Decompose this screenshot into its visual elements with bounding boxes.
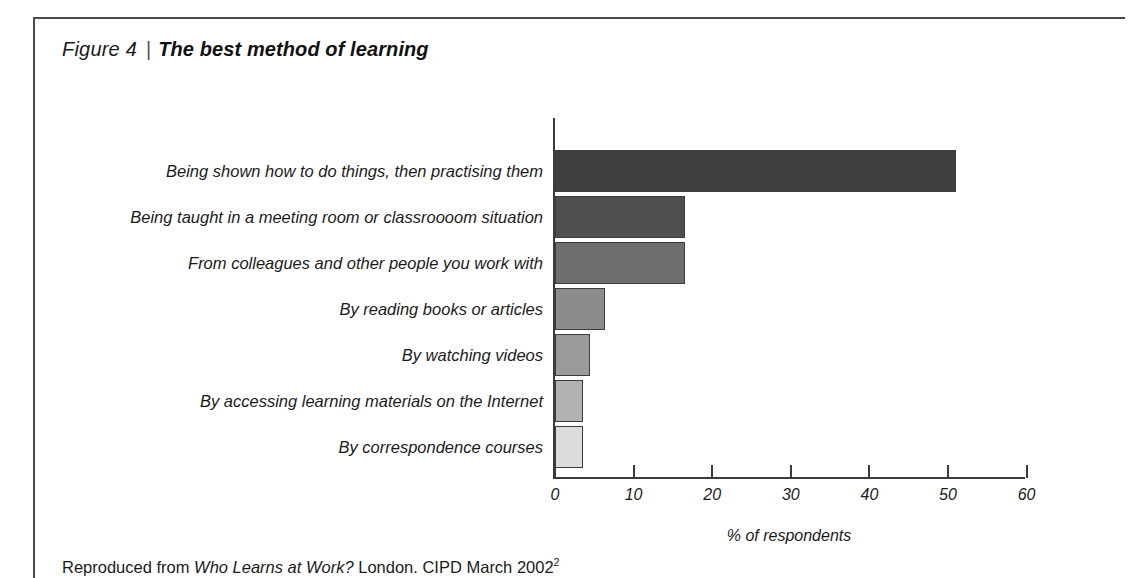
- bar: [555, 426, 583, 468]
- caption-suffix: London. CIPD March 2002: [354, 558, 554, 576]
- x-axis-tick: [790, 465, 792, 478]
- x-axis-tick-label: 20: [703, 486, 721, 504]
- x-axis-title: % of respondents: [727, 527, 852, 545]
- bar: [555, 288, 605, 330]
- x-axis-tick: [711, 465, 713, 478]
- x-axis-tick: [1026, 465, 1028, 478]
- x-axis-tick-label: 0: [551, 486, 560, 504]
- caption-source-title: Who Learns at Work?: [194, 558, 354, 576]
- x-axis-tick: [633, 465, 635, 478]
- category-label: By correspondence courses: [60, 438, 543, 456]
- category-label: Being taught in a meeting room or classr…: [60, 208, 543, 226]
- figure-page: Figure 4|The best method of learning 010…: [0, 0, 1130, 578]
- bar: [555, 196, 685, 238]
- x-axis-tick-label: 50: [939, 486, 957, 504]
- category-label: Being shown how to do things, then pract…: [60, 162, 543, 180]
- x-axis-tick-label: 30: [782, 486, 800, 504]
- category-label: By accessing learning materials on the I…: [60, 392, 543, 410]
- bar: [555, 242, 685, 284]
- x-axis-tick: [868, 465, 870, 478]
- caption-footnote-marker: 2: [554, 556, 560, 568]
- x-axis-tick-label: 40: [860, 486, 878, 504]
- figure-caption: Reproduced from Who Learns at Work? Lond…: [62, 552, 559, 577]
- bar: [555, 334, 590, 376]
- x-axis-tick-label: 60: [1018, 486, 1036, 504]
- category-label: From colleagues and other people you wor…: [60, 254, 543, 272]
- category-label: By watching videos: [60, 346, 543, 364]
- bar: [555, 380, 583, 422]
- category-label: By reading books or articles: [60, 300, 543, 318]
- bar-chart: 0102030405060 Being shown how to do thin…: [0, 0, 1130, 578]
- bar: [555, 150, 956, 192]
- x-axis-tick-label: 10: [625, 486, 643, 504]
- caption-prefix: Reproduced from: [62, 558, 194, 576]
- x-axis-tick: [947, 465, 949, 478]
